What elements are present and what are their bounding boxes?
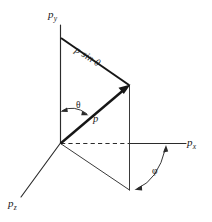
- py-axis-label-subscript: y: [54, 14, 57, 23]
- phi-arc-arrowhead-bottom: [135, 186, 143, 191]
- momentum-vector-diagram: py px pz p sin θ p θ φ: [0, 0, 212, 222]
- py-axis-label: py: [48, 9, 57, 20]
- theta-arc-arrowhead-right: [81, 111, 88, 115]
- theta-angle-label: θ: [76, 101, 81, 111]
- diagram-canvas: [0, 0, 212, 222]
- py-axis-label-base: p: [48, 8, 54, 20]
- plane-bottom-edge: [61, 144, 130, 191]
- theta-arc-arrowhead-left: [61, 108, 68, 112]
- px-axis-label-subscript: x: [193, 142, 196, 151]
- px-axis-label: px: [187, 137, 196, 148]
- px-axis-label-base: p: [187, 136, 193, 148]
- pz-axis-line: [21, 143, 61, 197]
- pz-axis-label: pz: [8, 198, 16, 209]
- phi-arc-arrowhead-top: [163, 145, 168, 153]
- momentum-vector-label: p: [93, 114, 98, 125]
- phi-angle-label: φ: [152, 167, 157, 177]
- pz-axis-label-subscript: z: [14, 203, 17, 212]
- pz-axis-label-base: p: [8, 197, 14, 209]
